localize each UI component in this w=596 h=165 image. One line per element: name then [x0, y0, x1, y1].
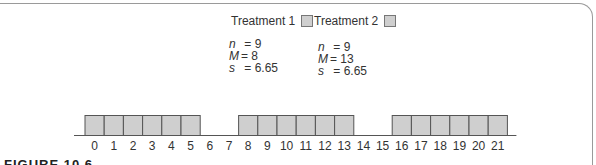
x-tick-label: 0: [91, 139, 98, 153]
frequency-distribution-chart: 0123456789101112131415161718192021: [0, 0, 596, 165]
score-box: [431, 116, 450, 136]
x-tick-label: 11: [300, 139, 313, 153]
x-tick-label: 4: [168, 139, 175, 153]
score-box: [85, 116, 104, 136]
x-axis-tick-labels: 0123456789101112131415161718192021: [91, 139, 505, 153]
score-box: [162, 116, 181, 136]
score-box: [258, 116, 277, 136]
score-box: [296, 116, 315, 136]
score-box: [277, 116, 296, 136]
score-box: [104, 116, 123, 136]
figure-caption: FIGURE 10.6: [4, 157, 93, 165]
score-box: [181, 116, 200, 136]
x-tick-label: 13: [338, 139, 352, 153]
score-boxes: [85, 116, 507, 136]
score-box: [315, 116, 334, 136]
score-box: [143, 116, 162, 136]
x-tick-label: 19: [453, 139, 467, 153]
x-tick-label: 18: [434, 139, 448, 153]
x-tick-label: 10: [280, 139, 294, 153]
score-box: [392, 116, 411, 136]
x-tick-label: 20: [472, 139, 486, 153]
x-tick-label: 17: [414, 139, 428, 153]
x-tick-label: 7: [226, 139, 233, 153]
score-box: [239, 116, 258, 136]
x-tick-label: 12: [318, 139, 332, 153]
x-tick-label: 5: [187, 139, 194, 153]
x-tick-label: 9: [264, 139, 271, 153]
score-box: [450, 116, 469, 136]
score-box: [469, 116, 488, 136]
x-tick-label: 15: [376, 139, 390, 153]
score-box: [123, 116, 142, 136]
score-box: [411, 116, 430, 136]
x-tick-label: 16: [395, 139, 409, 153]
x-tick-label: 21: [491, 139, 505, 153]
x-tick-label: 8: [245, 139, 252, 153]
x-tick-label: 3: [149, 139, 156, 153]
x-tick-label: 1: [110, 139, 117, 153]
score-box: [335, 116, 354, 136]
x-tick-label: 6: [206, 139, 213, 153]
score-box: [488, 116, 507, 136]
x-tick-label: 2: [130, 139, 137, 153]
x-tick-label: 14: [357, 139, 371, 153]
